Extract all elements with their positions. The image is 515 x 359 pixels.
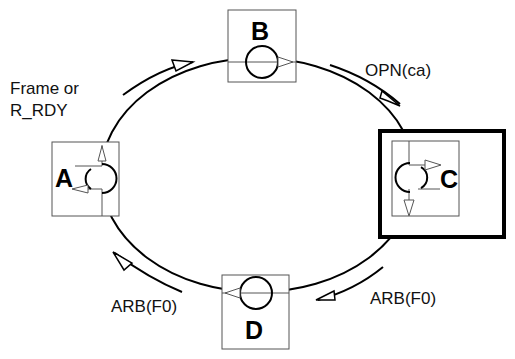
arrow-head-icon [113,252,132,270]
edge-label-arb-left: ARB(F0) [111,296,177,317]
arrow-a-to-b [123,60,193,95]
node-c-label: C [440,167,458,192]
edge-label-frame-line2: R_RDY [10,100,68,121]
loop-ring [101,58,415,292]
ring-diagram [0,0,515,359]
arrow-head-icon [316,291,335,300]
edge-label-opn: OPN(ca) [365,60,431,81]
edge-label-arb-right: ARB(F0) [370,288,436,309]
edge-label-frame-line1: Frame or [10,78,79,99]
node-a-label: A [55,166,73,191]
node-b-label: B [251,19,269,44]
node-d-label: D [245,318,263,343]
